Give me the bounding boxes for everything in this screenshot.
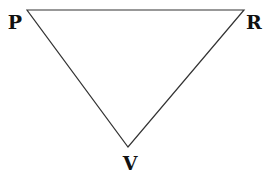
triangle-svg: P R V [0,0,269,179]
triangle-diagram: P R V [0,0,269,179]
triangle-prv [27,10,244,147]
vertex-label-v: V [122,152,139,174]
vertex-label-p: P [8,11,22,33]
vertex-label-r: R [246,11,262,33]
